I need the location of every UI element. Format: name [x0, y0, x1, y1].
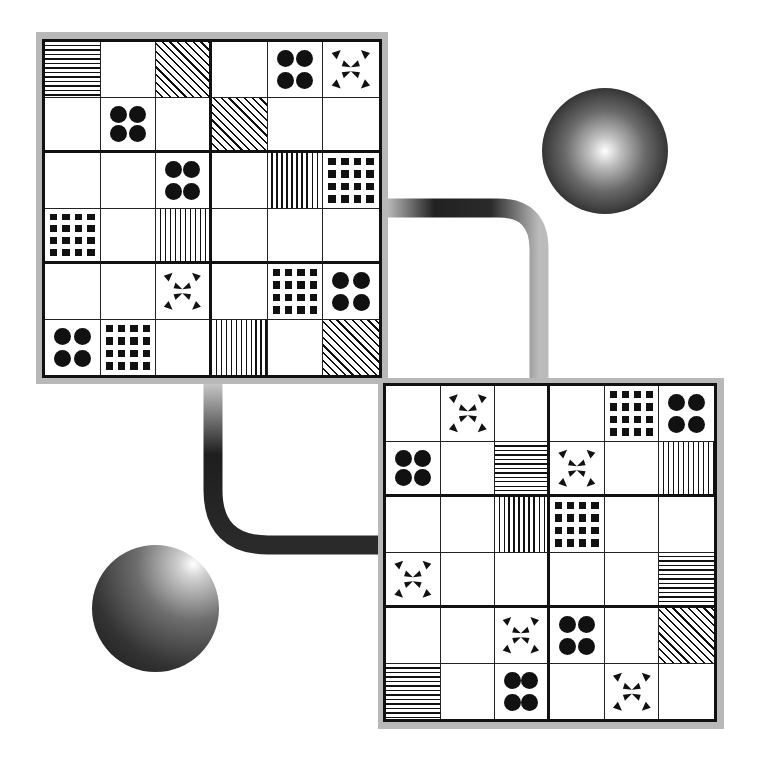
cell-empty: [101, 209, 157, 265]
cell-diagonal-lines: [323, 320, 379, 376]
cell-horizontal-lines: [495, 442, 550, 498]
four-dots-icon: [45, 320, 100, 376]
cell-empty: [605, 608, 660, 664]
cell-empty: [323, 98, 379, 154]
four-dots-icon: [101, 98, 156, 151]
cell-empty: [212, 264, 268, 320]
cell-four-dots: [101, 98, 157, 154]
cell-empty: [605, 553, 660, 609]
arrow-burst-icon: [605, 664, 659, 720]
connector-pipe-top: [378, 197, 560, 387]
cell-empty: [550, 664, 605, 720]
cell-four-dots: [495, 664, 550, 720]
cell-square-grid-16: [605, 386, 660, 442]
four-dots-icon: [386, 442, 440, 495]
cell-four-dots: [386, 442, 441, 498]
square-grid-icon: [106, 325, 151, 371]
square-grid-icon: [50, 214, 95, 257]
cell-empty: [156, 320, 212, 376]
cell-empty: [101, 153, 157, 209]
cell-empty: [550, 553, 605, 609]
cell-vertical-lines: [268, 153, 324, 209]
cell-empty: [45, 98, 101, 154]
cell-empty: [441, 664, 496, 720]
cell-square-grid-16: [268, 264, 324, 320]
square-grid-icon: [610, 391, 654, 436]
cell-empty: [495, 386, 550, 442]
arrow-burst-icon: [386, 553, 440, 606]
square-grid-icon: [328, 158, 374, 203]
cell-empty: [268, 320, 324, 376]
cell-square-grid-16: [323, 153, 379, 209]
square-grid-icon: [555, 502, 599, 547]
cell-empty: [45, 153, 101, 209]
cell-arrow-burst: [605, 664, 660, 720]
four-dots-icon: [495, 664, 547, 720]
arrow-burst-icon: [441, 386, 495, 441]
cell-empty: [386, 497, 441, 553]
cell-empty: [386, 386, 441, 442]
cell-empty: [268, 209, 324, 265]
cell-empty: [605, 442, 660, 498]
cell-empty: [659, 497, 714, 553]
cell-vertical-lines: [495, 497, 550, 553]
cell-empty: [550, 386, 605, 442]
cell-empty: [212, 153, 268, 209]
cell-empty: [441, 442, 496, 498]
puzzle-board-bottom-right: [383, 383, 717, 722]
four-dots-icon: [156, 153, 209, 208]
arrow-burst-icon: [386, 553, 440, 606]
cell-vertical-lines: [156, 209, 212, 265]
cell-empty: [268, 98, 324, 154]
cell-diagonal-lines: [659, 608, 714, 664]
arrow-burst-icon: [495, 608, 547, 663]
cell-empty: [212, 209, 268, 265]
cell-arrow-burst: [550, 442, 605, 498]
sphere-top-right: [542, 88, 668, 214]
cell-empty: [212, 42, 268, 98]
cell-four-dots: [550, 608, 605, 664]
cell-empty: [323, 209, 379, 265]
cell-square-grid-16: [550, 497, 605, 553]
cell-horizontal-lines: [659, 553, 714, 609]
arrow-burst-icon: [323, 42, 379, 97]
cell-arrow-burst: [323, 42, 379, 98]
cell-empty: [101, 42, 157, 98]
cell-arrow-burst: [441, 386, 496, 442]
cell-four-dots: [659, 386, 714, 442]
cell-empty: [386, 608, 441, 664]
cell-diagonal-lines: [156, 42, 212, 98]
arrow-burst-icon: [441, 386, 495, 441]
cell-horizontal-lines: [386, 664, 441, 720]
cell-square-grid-16: [45, 209, 101, 265]
cell-empty: [441, 497, 496, 553]
four-dots-icon: [659, 386, 714, 441]
arrow-burst-icon: [156, 264, 209, 319]
cell-empty: [441, 553, 496, 609]
arrow-burst-icon: [323, 42, 379, 97]
cell-vertical-lines: [659, 442, 714, 498]
cell-four-dots: [268, 42, 324, 98]
arrow-burst-icon: [156, 264, 209, 319]
cell-vertical-lines: [212, 320, 268, 376]
cell-empty: [156, 98, 212, 154]
cell-empty: [659, 664, 714, 720]
cell-empty: [101, 264, 157, 320]
four-dots-icon: [323, 264, 379, 319]
cell-four-dots: [156, 153, 212, 209]
puzzle-board-top-left: [42, 39, 382, 378]
cell-empty: [441, 608, 496, 664]
arrow-burst-icon: [495, 608, 547, 663]
four-dots-icon: [550, 608, 604, 663]
sphere-bottom-left: [92, 545, 219, 672]
cell-empty: [495, 553, 550, 609]
cell-diagonal-lines: [212, 98, 268, 154]
cell-arrow-burst: [386, 553, 441, 609]
square-grid-icon: [273, 269, 318, 314]
cell-four-dots: [323, 264, 379, 320]
arrow-burst-icon: [550, 442, 604, 495]
cell-arrow-burst: [495, 608, 550, 664]
four-dots-icon: [268, 42, 323, 97]
arrow-burst-icon: [605, 664, 659, 720]
cell-empty: [45, 264, 101, 320]
